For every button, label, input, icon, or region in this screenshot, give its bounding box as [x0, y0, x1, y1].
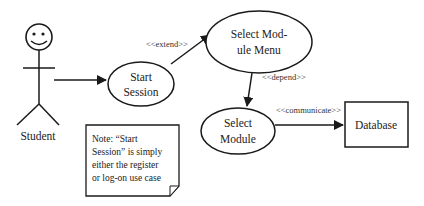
student-actor[interactable]	[17, 24, 59, 125]
svg-text:Start: Start	[130, 71, 153, 83]
note-box: Note: “Start Session” is simply either t…	[86, 125, 179, 196]
database-box[interactable]: Database	[345, 102, 408, 147]
svg-text:Select: Select	[224, 117, 253, 129]
use-case-select-module[interactable]: Select Module	[201, 108, 275, 154]
note-fold-icon	[170, 186, 179, 196]
svg-text:or log-on use case: or log-on use case	[92, 173, 161, 183]
svg-text:Module: Module	[220, 133, 256, 145]
svg-text:Session” is simply: Session” is simply	[92, 147, 162, 157]
depend-arrow	[247, 73, 252, 106]
use-case-diagram: Student Start Session <<extend>> Select …	[0, 0, 424, 206]
svg-text:Note: “Start: Note: “Start	[92, 134, 138, 144]
use-case-start-session[interactable]: Start Session	[108, 62, 174, 106]
svg-text:Database: Database	[355, 119, 397, 131]
svg-text:ule Menu: ule Menu	[237, 44, 281, 56]
communicate-label: <<communicate>>	[276, 105, 341, 115]
use-case-select-module-menu[interactable]: Select Mod- ule Menu	[206, 11, 312, 73]
depend-label: <<depend>>	[262, 72, 306, 82]
svg-text:Select Mod-: Select Mod-	[231, 28, 288, 40]
svg-text:either the register: either the register	[92, 160, 159, 170]
svg-text:Session: Session	[123, 86, 158, 98]
actor-label: Student	[20, 130, 56, 142]
actor-head-icon	[26, 24, 52, 50]
extend-label: <<extend>>	[146, 39, 188, 49]
